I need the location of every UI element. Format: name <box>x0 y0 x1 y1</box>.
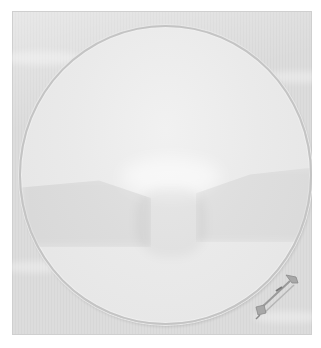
shadow-center <box>136 187 206 257</box>
hoop-screw-clasp-icon <box>250 269 306 321</box>
photo <box>12 11 312 335</box>
